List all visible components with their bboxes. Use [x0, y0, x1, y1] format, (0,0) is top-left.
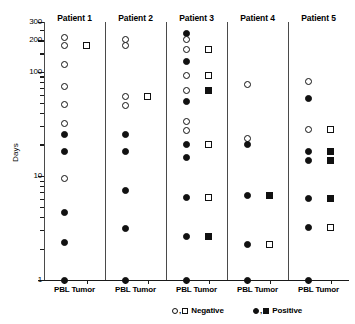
data-point-pbl-positive: [305, 224, 312, 231]
data-point-pbl-positive: [305, 148, 312, 155]
data-point-pbl-positive: [122, 225, 129, 232]
data-point-pbl-negative: [183, 72, 190, 79]
data-point-pbl-negative: [61, 101, 68, 108]
data-point-pbl-positive: [183, 194, 190, 201]
data-point-pbl-positive: [122, 131, 129, 138]
data-point-pbl-positive: [61, 277, 68, 284]
data-point-pbl-positive: [183, 277, 190, 284]
data-point-pbl-positive: [305, 95, 312, 102]
data-point-pbl-positive: [61, 209, 68, 216]
y-axis-tick-label: 300: [16, 17, 42, 26]
chart-legend: , Negative , Positive: [0, 303, 355, 321]
open-square-icon: [182, 308, 188, 314]
data-point-pbl-negative: [183, 118, 190, 125]
data-point-tumor-negative: [83, 42, 90, 49]
data-point-tumor-negative: [327, 224, 334, 231]
x-tick: [87, 280, 88, 284]
data-point-pbl-negative: [122, 102, 129, 109]
x-axis-label-patient-2: PBL Tumor: [101, 285, 171, 294]
data-point-pbl-positive: [244, 192, 251, 199]
open-circle-icon: [172, 308, 178, 314]
y-axis-tick-label: 200: [16, 35, 42, 44]
data-point-tumor-negative: [205, 194, 212, 201]
data-point-pbl-positive: [183, 154, 190, 161]
data-point-tumor-negative: [205, 141, 212, 148]
legend-positive-glyphs: ,: [253, 306, 269, 315]
x-axis-label-patient-5: PBL Tumor: [284, 285, 354, 294]
data-point-pbl-negative: [183, 36, 190, 43]
data-point-pbl-positive: [183, 58, 190, 65]
data-point-pbl-positive: [244, 241, 251, 248]
scatter-chart-figure: Days 300200100101 Patient 1PBL TumorPati…: [0, 0, 355, 324]
data-point-tumor-negative: [205, 72, 212, 79]
data-point-pbl-negative: [305, 126, 312, 133]
x-axis-label-patient-1: PBL Tumor: [40, 285, 110, 294]
data-point-pbl-positive: [61, 239, 68, 246]
data-point-tumor-negative: [144, 93, 151, 100]
data-point-pbl-negative: [183, 87, 190, 94]
data-point-pbl-negative: [61, 83, 68, 90]
data-point-pbl-negative: [61, 120, 68, 127]
x-tick: [209, 280, 210, 284]
data-point-pbl-positive: [122, 148, 129, 155]
y-axis-tick-label: 10: [16, 171, 42, 180]
plot-right-edge: [349, 22, 350, 280]
data-point-pbl-negative: [122, 93, 129, 100]
data-point-pbl-positive: [122, 277, 129, 284]
data-point-pbl-negative: [61, 175, 68, 182]
x-tick: [270, 280, 271, 284]
legend-positive-label: Positive: [272, 306, 302, 315]
data-point-pbl-positive: [305, 157, 312, 164]
data-point-pbl-negative: [183, 46, 190, 53]
data-point-tumor-positive: [205, 87, 212, 94]
data-point-pbl-negative: [183, 127, 190, 134]
data-point-tumor-positive: [266, 192, 273, 199]
data-point-pbl-positive: [244, 141, 251, 148]
data-point-pbl-positive: [305, 277, 312, 284]
data-point-pbl-positive: [244, 277, 251, 284]
data-point-pbl-negative: [61, 34, 68, 41]
data-point-pbl-positive: [305, 195, 312, 202]
data-point-pbl-positive: [183, 233, 190, 240]
y-axis-tick-label: 100: [16, 67, 42, 76]
x-tick: [331, 280, 332, 284]
x-tick: [148, 280, 149, 284]
data-point-pbl-positive: [61, 131, 68, 138]
data-point-pbl-negative: [61, 61, 68, 68]
x-axis-label-patient-3: PBL Tumor: [162, 285, 232, 294]
data-point-pbl-negative: [122, 42, 129, 49]
x-axis-label-patient-4: PBL Tumor: [223, 285, 293, 294]
data-point-pbl-positive: [183, 141, 190, 148]
data-point-pbl-negative: [61, 42, 68, 49]
plot-area: [44, 22, 349, 280]
legend-entry-negative: , Negative: [172, 306, 224, 315]
data-point-pbl-positive: [61, 148, 68, 155]
data-point-tumor-positive: [327, 148, 334, 155]
legend-entry-positive: , Positive: [253, 306, 302, 315]
data-point-tumor-positive: [327, 195, 334, 202]
data-point-pbl-negative: [305, 78, 312, 85]
data-point-tumor-positive: [327, 157, 334, 164]
data-point-pbl-positive: [122, 187, 129, 194]
data-point-pbl-positive: [183, 98, 190, 105]
data-point-tumor-negative: [266, 241, 273, 248]
legend-negative-label: Negative: [191, 306, 224, 315]
data-point-tumor-negative: [327, 126, 334, 133]
data-point-tumor-positive: [205, 233, 212, 240]
filled-circle-icon: [253, 308, 259, 314]
data-point-tumor-negative: [205, 46, 212, 53]
y-axis-tick-label: 1: [16, 275, 42, 284]
legend-negative-glyphs: ,: [172, 306, 188, 315]
data-point-pbl-negative: [244, 81, 251, 88]
filled-square-icon: [263, 308, 269, 314]
